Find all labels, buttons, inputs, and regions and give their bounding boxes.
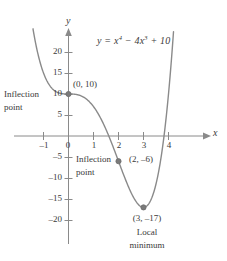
local-minimum-label-line2: minimum — [108, 241, 186, 251]
x-tick-label-2: 2 — [110, 141, 128, 151]
y-axis-label: y — [66, 16, 70, 27]
inflection-point-1-coordinate: (0, 10) — [73, 80, 97, 90]
y-tick-label-neg10: –10 — [38, 173, 62, 183]
inflection-point-1-label-line1: Inflection — [4, 90, 39, 100]
local-minimum-marker — [141, 205, 146, 210]
y-tick-label-neg15: –15 — [38, 194, 62, 204]
y-tick-label-20: 20 — [44, 47, 62, 57]
inflection-point-marker-2 — [116, 159, 121, 164]
inflection-point-2-label-line2: point — [76, 168, 95, 178]
function-graph-figure: y x y = x4 − 4x3 + 10 20 15 10 5 –5 –10 … — [0, 0, 227, 261]
equation-prefix: y = x — [97, 35, 119, 46]
equation-suffix: + 10 — [148, 35, 171, 46]
local-minimum-coordinate: (3, –17) — [108, 214, 186, 224]
inflection-point-marker-1 — [66, 91, 71, 96]
equation-label: y = x4 − 4x3 + 10 — [97, 36, 170, 47]
equation-middle: − 4x — [122, 35, 144, 46]
local-minimum-label-line1: Local — [108, 228, 186, 238]
y-tick-label-15: 15 — [44, 68, 62, 78]
x-tick-label-1: 1 — [85, 141, 103, 151]
x-tick-label-3: 3 — [135, 141, 153, 151]
inflection-point-1-label-line2: point — [4, 103, 23, 113]
y-tick-label-neg20: –20 — [38, 215, 62, 225]
x-tick-label-neg1: –1 — [35, 141, 53, 151]
y-tick-label-5: 5 — [44, 110, 62, 120]
y-tick-label-10: 10 — [44, 89, 62, 99]
inflection-point-2-coordinate: (2, –6) — [129, 155, 153, 165]
x-tick-label-4: 4 — [160, 141, 178, 151]
y-tick-label-neg5: –5 — [40, 152, 62, 162]
x-tick-label-0: 0 — [59, 141, 77, 151]
inflection-point-2-label-line1: Inflection — [76, 155, 111, 165]
x-axis-label: x — [213, 128, 217, 139]
